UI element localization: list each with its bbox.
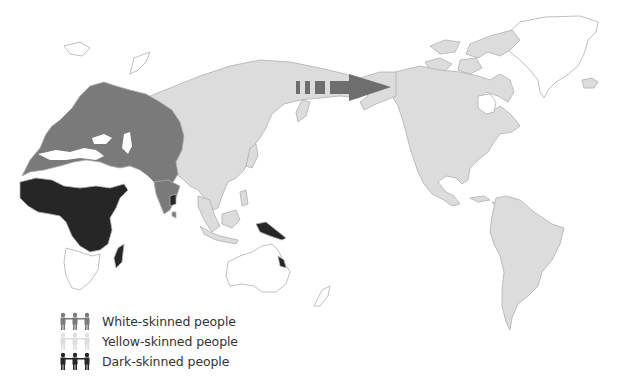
sumatra-java xyxy=(200,226,238,244)
legend-label: Yellow-skinned people xyxy=(102,334,238,349)
novaya-zemlya xyxy=(130,52,150,74)
new-guinea xyxy=(256,222,286,240)
legend-label: White-skinned people xyxy=(102,314,236,329)
people-icon xyxy=(58,352,94,370)
borneo xyxy=(222,210,240,228)
people-icon xyxy=(58,312,94,330)
legend-item-dark: Dark-skinned people xyxy=(58,351,238,371)
philippines xyxy=(240,190,248,206)
australia xyxy=(226,244,290,292)
south-america xyxy=(490,196,564,330)
sakhalin xyxy=(296,100,310,122)
map-legend: White-skinned people Yellow-skinned peop… xyxy=(58,311,238,371)
svalbard xyxy=(64,42,90,56)
north-america xyxy=(386,66,520,206)
iceland xyxy=(582,78,598,88)
africa-sub-saharan xyxy=(20,178,128,252)
persian-gulf xyxy=(122,172,132,180)
southern-africa xyxy=(64,248,100,290)
red-sea xyxy=(100,166,114,188)
madagascar xyxy=(114,244,124,268)
legend-item-white: White-skinned people xyxy=(58,311,238,331)
sri-lanka xyxy=(172,212,176,218)
arctic-islands xyxy=(425,30,520,74)
legend-item-yellow: Yellow-skinned people xyxy=(58,331,238,351)
india-south-dark xyxy=(170,194,176,206)
people-icon xyxy=(58,332,94,350)
legend-label: Dark-skinned people xyxy=(102,354,229,369)
new-zealand xyxy=(314,286,330,306)
